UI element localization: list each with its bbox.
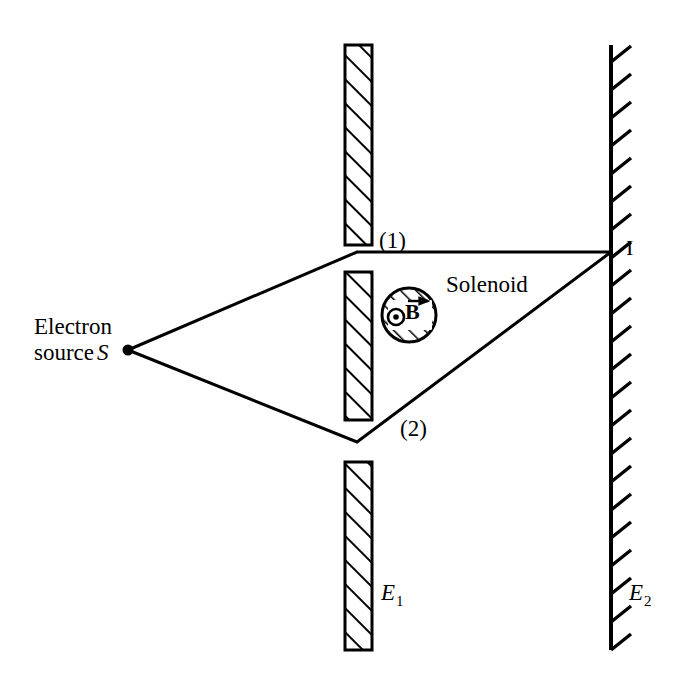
- screen-e2-subscript: 2: [643, 593, 652, 609]
- magnetic-field-label: B: [405, 300, 420, 325]
- electron-source-point: [123, 345, 134, 356]
- figure-root: Electron sourceS (1) (2) Solenoid B I E1…: [0, 0, 676, 674]
- screen-e2-letter: E: [629, 580, 643, 605]
- barrier-bar-middle: [345, 272, 372, 420]
- screen-e2-detector: [611, 45, 631, 650]
- screen-e1-subscript: 1: [395, 593, 404, 609]
- screen-e2-label: E2: [629, 580, 652, 609]
- electron-source-label: Electron sourceS: [34, 314, 112, 366]
- electron-source-line2: source: [34, 340, 94, 365]
- barrier-bar-top: [345, 45, 372, 245]
- solenoid-label: Solenoid: [446, 272, 528, 298]
- screen-e1-letter: E: [381, 580, 395, 605]
- interference-point-label: I: [626, 236, 633, 261]
- screen-e1-barrier: [345, 45, 372, 650]
- electron-source-symbol: S: [94, 340, 109, 365]
- screen-e1-label: E1: [381, 580, 404, 609]
- barrier-bar-bottom: [345, 462, 372, 650]
- electron-source-line1: Electron: [34, 314, 112, 339]
- screen-e2-hatch-ticks: [611, 46, 631, 650]
- field-out-of-page-icon: [388, 309, 404, 325]
- path-label-2: (2): [400, 416, 427, 442]
- path-label-1: (1): [379, 228, 406, 254]
